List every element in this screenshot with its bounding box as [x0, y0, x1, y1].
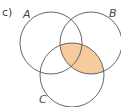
set-a-label: A [22, 8, 31, 21]
set-b-label: B [109, 7, 117, 20]
set-c-label: C [39, 93, 47, 106]
venn-diagram: c) A B C [0, 0, 121, 107]
part-label: c) [2, 6, 12, 19]
